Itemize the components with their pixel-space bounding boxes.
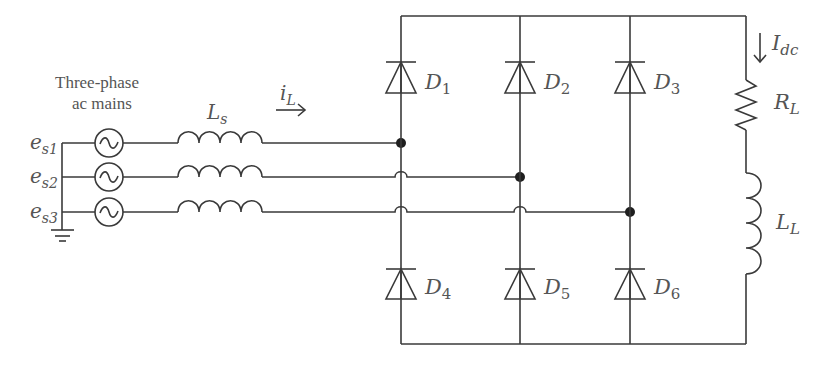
svg-text:Idc: Idc <box>771 31 799 59</box>
svg-text:D3: D3 <box>653 70 680 98</box>
diode-label-d2: D2 <box>543 70 570 98</box>
arrow-down-icon <box>754 33 766 62</box>
line-inductor-icon-1 <box>178 132 262 143</box>
source-caption-line2: ac mains <box>72 94 132 113</box>
phase-label-es1: es1 <box>30 130 58 157</box>
ac-source-icon-3 <box>95 198 123 226</box>
line-inductor-label: Ls <box>206 100 227 127</box>
svg-text:D2: D2 <box>543 70 570 98</box>
diode-icon-d2 <box>505 62 535 93</box>
svg-text:LL: LL <box>775 210 800 238</box>
load-inductor-icon <box>746 173 761 274</box>
diode-label-d6: D6 <box>653 275 680 303</box>
svg-text:es1: es1 <box>30 130 58 157</box>
svg-text:D5: D5 <box>543 275 570 303</box>
diode-label-d4: D4 <box>424 275 451 303</box>
ground-icon <box>51 230 74 241</box>
diode-icon-d6 <box>615 269 645 299</box>
svg-text:Ls: Ls <box>206 100 227 127</box>
wire-phase2-b <box>262 172 520 177</box>
svg-text:RL: RL <box>773 90 800 118</box>
source-caption-line1: Three-phase <box>55 73 139 92</box>
line-current-label: iL <box>280 81 296 108</box>
resistor-icon <box>736 80 756 130</box>
phase-label-es2: es2 <box>30 164 58 191</box>
svg-text:iL: iL <box>280 81 296 108</box>
line-inductor-icon-2 <box>178 166 262 177</box>
load-resistor-label: RL <box>773 90 800 118</box>
diode-icon-d1 <box>386 62 416 93</box>
diode-icon-d5 <box>505 269 535 299</box>
diode-icon-d3 <box>615 62 645 93</box>
diode-label-d1: D1 <box>424 70 451 98</box>
svg-text:D4: D4 <box>424 275 451 303</box>
ac-source-icon-1 <box>95 129 123 157</box>
diode-label-d3: D3 <box>653 70 680 98</box>
svg-text:es2: es2 <box>30 164 58 191</box>
svg-text:D6: D6 <box>653 275 680 303</box>
svg-text:D1: D1 <box>424 70 451 98</box>
svg-text:es3: es3 <box>30 199 58 226</box>
circuit-diagram: Three-phase ac mains es1 es2 es3 <box>0 0 826 365</box>
wire-phase3-b <box>262 207 630 212</box>
dc-current-label: Idc <box>771 31 799 59</box>
phase-label-es3: es3 <box>30 199 58 226</box>
neutral-bus <box>62 143 95 230</box>
load-inductor-label: LL <box>775 210 800 238</box>
diode-icon-d4 <box>386 269 416 299</box>
line-inductor-icon-3 <box>178 201 262 212</box>
diode-label-d5: D5 <box>543 275 570 303</box>
ac-source-icon-2 <box>95 163 123 191</box>
